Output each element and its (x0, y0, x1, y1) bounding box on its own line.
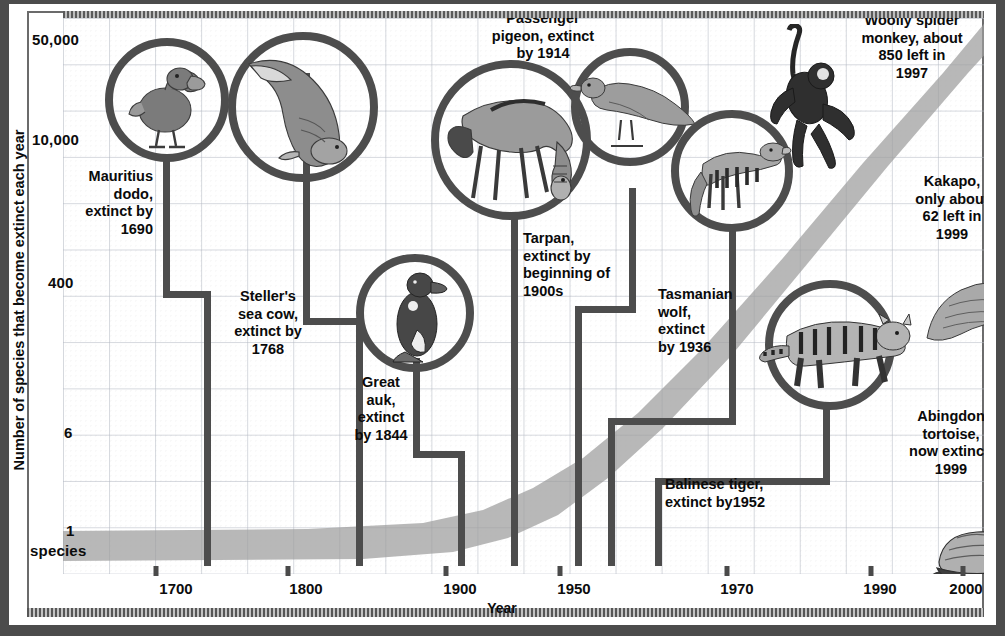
x-tick-mark-1970 (725, 566, 730, 576)
annotation-kakapo: Kakapo, only about 62 left in 1999 (885, 173, 984, 243)
y-tick-10000: 10,000 (32, 131, 79, 148)
x-tick-mark-1900 (444, 566, 449, 576)
outer-frame-right (996, 0, 1005, 636)
x-tick-mark-1700 (154, 566, 159, 576)
annotation-tarpan: Tarpan, extinct by beginning of 1900s (523, 230, 655, 300)
x-axis-title: Year (487, 600, 517, 616)
leader-pigeon-v2 (575, 306, 582, 566)
kakapo-illustration (919, 268, 984, 366)
y-tick-6: 6 (64, 424, 73, 441)
x-tick-1990: 1990 (863, 580, 896, 597)
x-tick-2000: 2000 (949, 580, 982, 597)
x-tick-mark-2000 (961, 566, 966, 576)
leader-pigeon-h1 (575, 306, 635, 313)
annotation-balinese-tiger: Balinese tiger, extinct by1952 (665, 476, 825, 511)
x-tick-mark-1990 (869, 566, 874, 576)
x-tick-1900: 1900 (443, 580, 476, 597)
x-tick-1800: 1800 (289, 580, 322, 597)
x-tick-mark-1800 (286, 566, 291, 576)
leader-auk-v2 (458, 451, 465, 566)
annotation-stellers-sea-cow: Steller's sea cow, extinct by 1768 (208, 288, 328, 358)
x-tick-mark-1950 (558, 566, 563, 576)
annotation-abingdon-tortoise: Abingdon tortoise, now extinct, 1999 (881, 408, 984, 478)
leader-tasmanian-h1 (608, 418, 736, 425)
balinese-tiger-illustration (753, 302, 921, 394)
sea-cow-illustration (239, 46, 371, 170)
tortoise-illustration (923, 518, 984, 574)
annotation-great-auk: Great auk, extinct by 1844 (343, 374, 419, 444)
x-tick-1970: 1970 (720, 580, 753, 597)
extinction-rate-chart: Mauritius dodo, extinct by 1690 Steller'… (0, 0, 1005, 636)
top-rule (63, 11, 984, 18)
y-tick-species-suffix: species (30, 542, 86, 559)
leader-dodo-v1 (163, 158, 170, 298)
y-axis-title: Number of species that become extinct ea… (11, 85, 27, 515)
leader-balinese-v2 (655, 478, 662, 566)
annotation-tasmanian-wolf: Tasmanian wolf, extinct by 1936 (658, 286, 768, 356)
dodo-illustration (125, 52, 211, 152)
x-tick-1700: 1700 (159, 580, 192, 597)
y-tick-400: 400 (48, 274, 74, 291)
annotation-mauritius-dodo: Mauritius dodo, extinct by 1690 (63, 168, 153, 238)
annotation-woolly-spider-monkey: Woolly spider monkey, about 850 left in … (833, 18, 984, 82)
leader-balinese-v1 (823, 408, 830, 485)
leader-tasmanian-v2 (608, 418, 615, 566)
y-tick-1: 1 (66, 522, 75, 539)
plot-area: Mauritius dodo, extinct by 1690 Steller'… (63, 18, 984, 574)
x-tick-1950: 1950 (557, 580, 590, 597)
annotation-passenger-pigeon: Passenger pigeon, extinct by 1914 (463, 18, 623, 63)
great-auk-illustration (383, 266, 453, 366)
leader-tarpan-v1 (511, 218, 518, 566)
y-tick-50000: 50,000 (32, 31, 79, 48)
